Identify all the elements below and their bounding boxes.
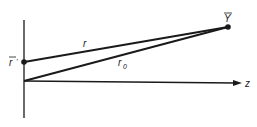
- line-r0: [24, 27, 228, 81]
- z-axis-arrowhead-icon: [233, 80, 242, 86]
- z-axis: [24, 81, 236, 83]
- line-r0-label: r: [118, 57, 122, 68]
- z-axis-label: z: [244, 78, 250, 89]
- field-point: [225, 24, 231, 30]
- source-point: [21, 59, 27, 65]
- geometry-diagram: z r ' Y r r 0: [0, 0, 257, 127]
- line-r-label: r: [83, 38, 87, 49]
- line-r0-subscript: 0: [123, 63, 127, 70]
- source-point-prime: ': [16, 57, 18, 66]
- field-point-label: Y: [224, 13, 232, 24]
- line-r: [24, 27, 228, 62]
- source-point-label: r: [9, 57, 13, 68]
